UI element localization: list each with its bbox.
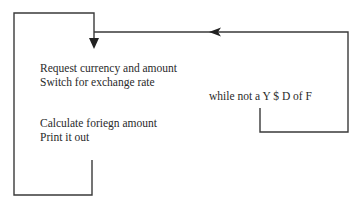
arrow-down-icon: [89, 38, 99, 49]
outer-bracket-top: [14, 13, 94, 195]
request-block: Request currency and amount Switch for e…: [40, 61, 177, 89]
calculate-line-1: Calculate foriegn amount: [40, 116, 157, 130]
loop-diagram: Request currency and amount Switch for e…: [0, 0, 359, 205]
request-line-1: Request currency and amount: [40, 61, 177, 75]
calculate-line-2: Print it out: [40, 130, 157, 144]
loop-condition-label: while not a Y $ D of F: [209, 89, 312, 103]
calculate-block: Calculate foriegn amount Print it out: [40, 116, 157, 144]
request-line-2: Switch for exchange rate: [40, 75, 177, 89]
